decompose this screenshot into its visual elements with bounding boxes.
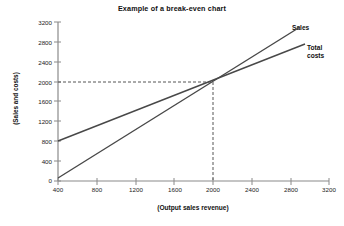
break-even-chart: Example of a break-even chart (Sales and…	[0, 0, 344, 226]
series-line-sales	[58, 27, 300, 178]
series-line-total-costs	[58, 44, 305, 141]
chart-plot-area	[0, 0, 344, 226]
